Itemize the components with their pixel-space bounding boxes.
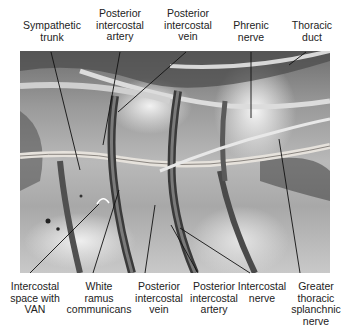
label-greater-thoracic-splanchnic-nerve: Greater thoracic splanchnic nerve	[286, 281, 346, 327]
label-phrenic-nerve: Phrenic nerve	[223, 20, 279, 43]
leader-posterior-intercostal-vein-bottom	[145, 205, 155, 273]
label-posterior-intercostal-vein-bottom: Posterior intercostal vein	[128, 281, 190, 316]
van-marker	[97, 199, 109, 204]
leader-thoracic-duct	[289, 52, 306, 65]
leader-posterior-intercostal-artery-bottom	[171, 225, 198, 273]
leader-greater-thoracic-splanchnic-nerve	[279, 139, 300, 273]
label-white-ramus-communicans: White ramus communicans	[64, 281, 134, 316]
leader-white-ramus-communicans	[93, 190, 119, 273]
leader-intercostal-space-with-van	[30, 204, 99, 273]
leader-intercostal-nerve	[180, 228, 250, 273]
label-posterior-intercostal-artery: Posterior intercostal artery	[82, 8, 158, 43]
label-posterior-intercostal-vein: Posterior intercostal vein	[150, 8, 226, 43]
label-intercostal-nerve: Intercostal nerve	[232, 281, 292, 304]
leader-posterior-intercostal-vein-top	[118, 52, 186, 112]
leader-sympathetic-trunk	[51, 52, 80, 170]
label-intercostal-space-with-van: Intercostal space with VAN	[3, 281, 67, 316]
leader-posterior-intercostal-artery-top	[103, 52, 120, 145]
label-thoracic-duct: Thoracic duct	[282, 20, 342, 43]
